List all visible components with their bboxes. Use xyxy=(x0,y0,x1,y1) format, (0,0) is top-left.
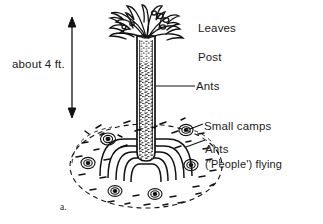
ant-nest-post-diagram: Leaves Post Ants Small camps Ants ('Peop… xyxy=(0,0,323,224)
nest-post xyxy=(137,36,155,161)
height-measure-arrow xyxy=(68,17,76,118)
small-camp xyxy=(81,157,95,168)
figure-caption: a. xyxy=(60,202,67,212)
small-camp xyxy=(148,189,162,200)
leader-lines xyxy=(156,86,205,147)
small-camp-labeled xyxy=(179,124,193,135)
leaf-crown xyxy=(110,5,183,40)
small-camp xyxy=(108,186,122,197)
label-people-flying: ('People') flying xyxy=(205,158,282,170)
label-height-measure: about 4 ft. xyxy=(12,58,65,70)
label-ants-on-post: Ants xyxy=(196,80,220,92)
small-camp xyxy=(101,133,116,145)
ants-on-post-texture xyxy=(139,40,153,159)
label-leaves: Leaves xyxy=(198,22,236,34)
label-small-camps: Small camps xyxy=(204,120,271,132)
label-ants-flying: Ants xyxy=(205,143,229,155)
label-post: Post xyxy=(198,51,222,63)
diagram-artwork xyxy=(0,0,323,224)
